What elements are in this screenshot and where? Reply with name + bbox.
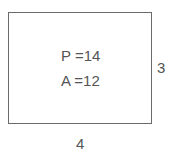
area-label: A =12 bbox=[61, 73, 100, 88]
width-label: 4 bbox=[76, 136, 84, 151]
perimeter-label: P =14 bbox=[61, 48, 100, 63]
rectangle-shape bbox=[8, 12, 152, 124]
height-label: 3 bbox=[157, 60, 165, 75]
